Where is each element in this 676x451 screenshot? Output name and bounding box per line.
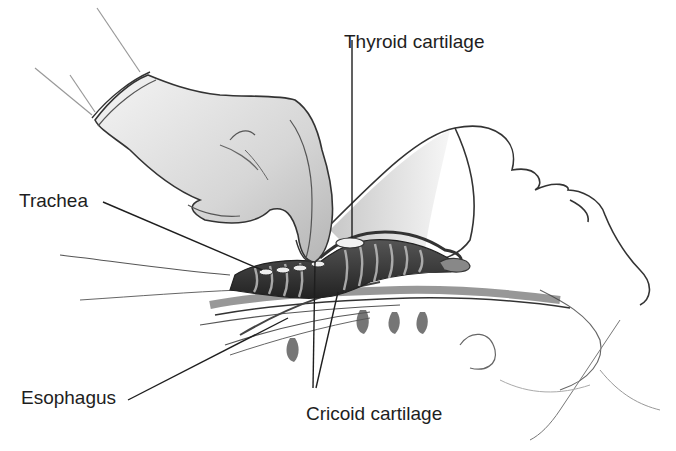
leader-esophagus: [128, 318, 288, 400]
label-thyroid-cartilage: Thyroid cartilage: [344, 32, 484, 51]
label-trachea: Trachea: [19, 191, 88, 210]
leader-cricoid-2: [316, 292, 338, 388]
label-cricoid-cartilage: Cricoid cartilage: [306, 404, 442, 423]
gloved-hand: [92, 72, 333, 262]
thyroid-prominence: [336, 238, 364, 248]
illustration-drawing: [0, 0, 676, 451]
anatomy-illustration: Thyroid cartilage Trachea Esophagus Cric…: [0, 0, 676, 451]
label-esophagus: Esophagus: [21, 388, 116, 407]
vessel-drops: [287, 310, 428, 362]
